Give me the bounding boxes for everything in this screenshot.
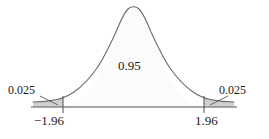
left-tail-area-label: 0.025	[8, 84, 35, 96]
right-tick-value-label: 1.96	[195, 114, 218, 127]
center-area-label: 0.95	[118, 59, 141, 72]
normal-distribution-figure: 0.95 0.025 0.025 −1.96 1.96	[0, 0, 269, 139]
left-tick-value-label: −1.96	[34, 114, 64, 127]
right-tail-area-label: 0.025	[219, 84, 246, 96]
